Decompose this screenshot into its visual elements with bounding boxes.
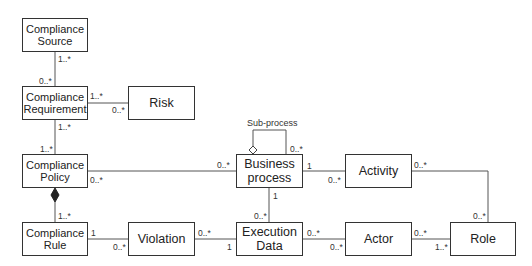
- mult-bp-sub: 0..*: [290, 145, 303, 154]
- mult-violation-rule: 0..*: [113, 243, 126, 252]
- mult-actor-role: 0..*: [414, 229, 427, 238]
- mult-exec-actor: 0..*: [307, 229, 320, 238]
- class-activity: Activity: [345, 154, 412, 188]
- class-risk: Risk: [128, 86, 195, 120]
- class-violation: Violation: [128, 222, 195, 256]
- mult-activity-role: 0..*: [414, 161, 427, 170]
- mult-rule-top: 1..*: [58, 212, 71, 221]
- mult-exec-bp: 0..*: [254, 212, 267, 221]
- mult-risk: 0..*: [112, 106, 125, 115]
- mult-role-activity: 0..*: [473, 212, 486, 221]
- mult-policy-bp: 0..*: [90, 176, 103, 185]
- class-compliance-requirement: Compliance Requirement: [22, 86, 88, 120]
- class-compliance-source: Compliance Source: [22, 18, 88, 52]
- mult-role-actor: 1..*: [435, 243, 448, 252]
- sub-process-label: Sub-process: [247, 118, 298, 128]
- class-compliance-policy: Compliance Policy: [22, 154, 88, 188]
- mult-activity-bp: 0..*: [328, 176, 341, 185]
- mult-actor-exec: 0..*: [330, 243, 343, 252]
- class-compliance-rule: Compliance Rule: [22, 222, 88, 256]
- class-execution-data: Execution Data: [236, 222, 303, 256]
- mult-violation-exec: 0..*: [198, 229, 211, 238]
- class-business-process: Business process: [236, 154, 303, 188]
- class-role: Role: [450, 222, 516, 256]
- mult-bp-activity: 1: [307, 162, 312, 171]
- mult-policy-top: 1..*: [40, 145, 53, 154]
- mult-req-bottom: 1..*: [58, 123, 71, 132]
- mult-bp-exec: 1: [273, 192, 278, 201]
- mult-req-top: 0..*: [39, 77, 52, 86]
- class-actor: Actor: [345, 222, 412, 256]
- mult-rule-violation: 1: [91, 229, 96, 238]
- mult-bp-policy: 0..*: [217, 161, 230, 170]
- mult-req-risk: 1..*: [90, 92, 103, 101]
- mult-exec-violation: 1: [227, 243, 232, 252]
- aggregation-diamond-icon: [249, 146, 257, 154]
- mult-source: 1..*: [58, 55, 71, 64]
- composition-diamond-icon: [51, 188, 59, 202]
